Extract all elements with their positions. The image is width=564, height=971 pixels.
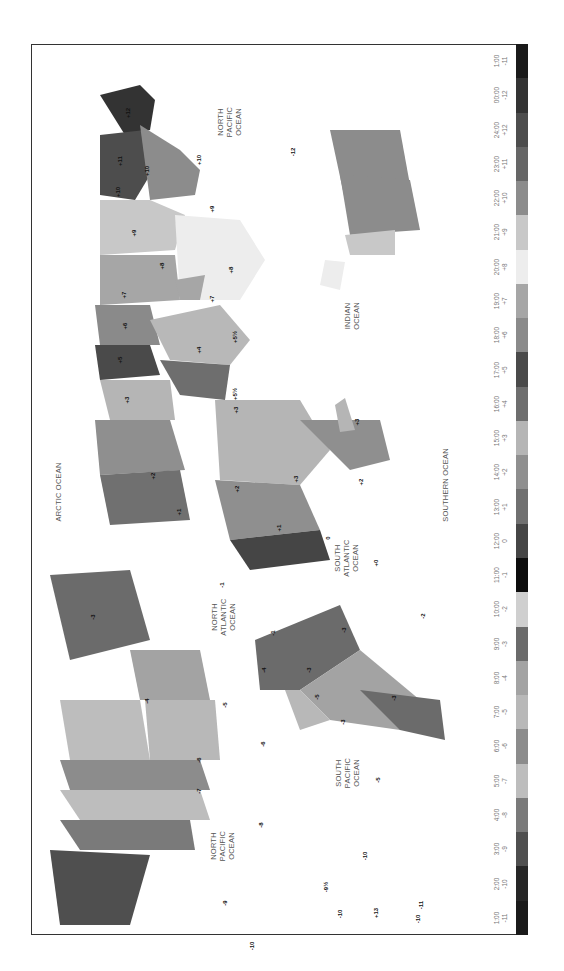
legend-item: 20:00+8: [486, 250, 516, 284]
zone-offset-label: -10: [249, 942, 255, 951]
legend-swatch: [516, 113, 528, 147]
zone-offset-label: +5½: [232, 388, 238, 400]
legend-item: 15:00+3: [486, 421, 516, 455]
ocean-label: SOUTHPACIFICOCEAN: [334, 758, 361, 788]
legend-swatch: [516, 250, 528, 284]
legend-item: 23:00+11: [486, 147, 516, 181]
legend-item: 10:00-2: [486, 592, 516, 626]
legend-swatch: [516, 627, 528, 661]
ocean-label: SOUTHERN OCEAN: [441, 448, 450, 522]
zone-offset-label: +8: [159, 263, 165, 270]
legend-label: 1:00-11: [493, 55, 509, 68]
legend-swatch: [516, 832, 528, 866]
zone-offset-label: -11: [418, 901, 424, 909]
legend-item: 00:00-12: [486, 78, 516, 112]
zone-offset-label: +0: [373, 560, 379, 567]
legend-label: 4:00-8: [493, 809, 509, 822]
legend-swatch: [516, 78, 528, 112]
legend-swatch: [516, 798, 528, 832]
zone-offset-label: -10: [362, 852, 368, 861]
legend-swatch: [516, 592, 528, 626]
legend-label: 11:00-1: [493, 567, 509, 583]
legend-item: 6:00-6: [486, 729, 516, 763]
legend-label: 2:00-10: [493, 877, 509, 890]
legend-swatch: [516, 147, 528, 181]
legend-label: 16:00+4: [493, 396, 509, 412]
legend-label: 17:00+5: [493, 361, 509, 377]
legend-label: 10:00-2: [493, 601, 509, 617]
zone-offset-label: -4: [261, 667, 267, 672]
legend-label: 7:00-5: [493, 706, 509, 719]
zone-offset-label: +10: [196, 155, 202, 165]
zone-offset-label: +2: [358, 479, 364, 486]
legend-swatch: [516, 421, 528, 455]
zone-offset-label: +10: [144, 166, 150, 176]
legend-item: 21:00+9: [486, 215, 516, 249]
ocean-label: NORTHPACIFICOCEAN: [209, 831, 236, 861]
legend-label: 5:00-7: [493, 774, 509, 787]
legend-item: 5:00-7: [486, 764, 516, 798]
zone-offset-label: +7: [121, 292, 127, 299]
legend-swatch: [516, 901, 528, 935]
legend-item: 3:00-9: [486, 832, 516, 866]
legend-label: 18:00+6: [493, 327, 509, 343]
legend-item: 16:00+4: [486, 387, 516, 421]
zone-offset-label: +12: [125, 108, 131, 118]
legend-label: 12:000: [493, 533, 509, 549]
zone-offset-label: -8: [258, 822, 264, 827]
legend-item: 17:00+5: [486, 352, 516, 386]
zone-offset-label: +13: [373, 908, 379, 918]
zone-offset-label: +1: [276, 525, 282, 532]
legend-item: 12:000: [486, 524, 516, 558]
legend-swatch: [516, 44, 528, 78]
legend-label: 15:00+3: [493, 430, 509, 446]
zone-offset-label: -1: [270, 630, 276, 635]
legend-swatch: [516, 387, 528, 421]
zone-offset-label: +3: [354, 419, 360, 426]
legend-swatch: [516, 729, 528, 763]
legend-item: 7:00-5: [486, 695, 516, 729]
legend-item: 18:00+6: [486, 318, 516, 352]
legend-item: 2:00-10: [486, 866, 516, 900]
zone-offset-label: +3: [233, 407, 239, 414]
legend-label: 13:00+1: [493, 498, 509, 514]
legend-swatch: [516, 489, 528, 523]
legend-item: 24:00+12: [486, 113, 516, 147]
zone-offset-label: -5: [375, 777, 381, 782]
legend-label: 22:00+10: [493, 190, 509, 206]
legend-label: 19:00+7: [493, 293, 509, 309]
zone-offset-label: -3: [341, 627, 347, 632]
timezone-legend: [516, 44, 528, 935]
ocean-label: INDIANOCEAN: [343, 302, 361, 330]
legend-swatch: [516, 181, 528, 215]
zone-offset-label: +10: [115, 187, 121, 197]
legend-swatch: [516, 764, 528, 798]
zone-offset-label: 0: [325, 536, 331, 539]
zone-offset-label: -12: [290, 148, 296, 157]
ocean-label: NORTHATLANTICOCEAN: [210, 598, 237, 635]
legend-swatch: [516, 455, 528, 489]
zone-offset-label: -6: [196, 757, 202, 762]
zone-offset-label: -3: [391, 695, 397, 700]
legend-label: 20:00+8: [493, 259, 509, 275]
legend-swatch: [516, 661, 528, 695]
legend-swatch: [516, 352, 528, 386]
zone-offset-label: +8: [228, 267, 234, 274]
legend-item: 8:00-4: [486, 661, 516, 695]
zone-offset-label: +2: [150, 473, 156, 480]
legend-item: 19:00+7: [486, 284, 516, 318]
zone-offset-label: +9: [209, 206, 215, 213]
legend-item: 11:00-1: [486, 558, 516, 592]
legend-label: 1:00-11: [493, 911, 509, 924]
legend-item: 1:00-11: [486, 901, 516, 935]
legend-item: 4:00-8: [486, 798, 516, 832]
americas-landmass: [50, 570, 445, 925]
zone-offset-label: -5: [222, 702, 228, 707]
zone-offset-label: +3: [293, 476, 299, 483]
legend-label: 8:00-4: [493, 672, 509, 685]
zone-offset-label: +1: [176, 509, 182, 516]
legend-swatch: [516, 558, 528, 592]
legend-item: 13:00+1: [486, 489, 516, 523]
zone-offset-label: +4: [196, 347, 202, 354]
legend-item: 1:00-11: [486, 44, 516, 78]
